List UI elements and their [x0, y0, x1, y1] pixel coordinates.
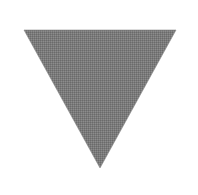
triangle-down-icon: [24, 30, 176, 168]
canvas: [0, 0, 198, 195]
